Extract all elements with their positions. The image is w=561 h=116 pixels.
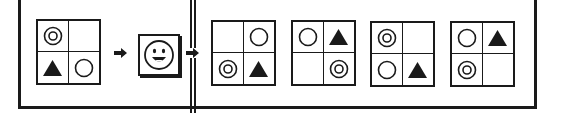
empty-cell — [69, 21, 100, 52]
empty-cell — [403, 23, 434, 54]
arrow-right-icon — [114, 48, 127, 58]
double-circle-icon — [213, 53, 244, 84]
smiley-operator-box — [138, 34, 180, 76]
filled-triangle-icon — [244, 53, 275, 84]
filled-triangle-icon — [403, 54, 434, 85]
filled-triangle-icon — [38, 52, 69, 83]
double-circle-icon — [372, 23, 403, 54]
double-circle-icon — [38, 21, 69, 52]
circle-icon — [69, 52, 100, 83]
filled-triangle-icon — [483, 23, 514, 54]
arrow-right-icon — [186, 48, 199, 58]
option-grid-2[interactable] — [291, 20, 356, 86]
option-grid-3[interactable] — [370, 21, 435, 87]
circle-icon — [244, 22, 275, 53]
smiley-face-icon — [143, 39, 175, 71]
empty-cell — [213, 22, 244, 53]
option-grid-4[interactable] — [450, 21, 515, 87]
empty-cell — [293, 53, 324, 84]
source-grid — [36, 19, 101, 85]
empty-cell — [483, 54, 514, 85]
filled-triangle-icon — [324, 22, 355, 53]
circle-icon — [452, 23, 483, 54]
double-circle-icon — [452, 54, 483, 85]
circle-icon — [372, 54, 403, 85]
option-grid-1[interactable] — [211, 20, 276, 86]
double-circle-icon — [324, 53, 355, 84]
circle-icon — [293, 22, 324, 53]
